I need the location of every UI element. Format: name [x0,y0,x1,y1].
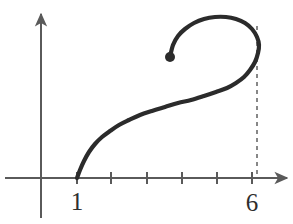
spiral-curve [77,17,259,178]
curve-group [77,17,259,178]
curve-endpoint-dot [165,52,175,62]
figure-canvas: 1 6 [0,0,293,224]
axes-group [5,14,287,218]
x-tick-label-1: 1 [71,188,84,215]
spiral-curve-figure: 1 6 [0,0,293,224]
x-tick-label-6: 6 [246,189,259,216]
tick-labels-group: 1 6 [71,188,259,216]
